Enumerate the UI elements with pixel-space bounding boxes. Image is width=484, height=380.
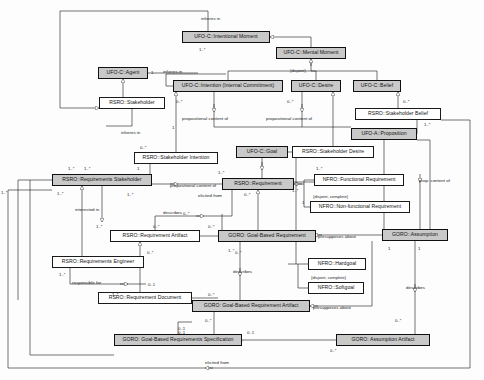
edge-label-prop_content_1: propositional content of <box>182 117 228 122</box>
class-node-label: RSRO::Requirements Stakeholder <box>55 177 149 182</box>
class-node-label: NFRO::Hardgoal <box>311 261 363 266</box>
multiplicity-m37: 0..* <box>330 348 336 353</box>
multiplicity-m26: 1 <box>388 246 390 251</box>
class-node-proposition[interactable]: UFO-A::Proposition <box>351 128 417 140</box>
edge-label-inheres_in_mid: inheres in <box>121 131 140 136</box>
class-node-mental_moment[interactable]: UFO-C::Mental Moment <box>276 47 346 59</box>
multiplicity-m24: 1..* <box>228 248 234 253</box>
multiplicity-m19: 1 <box>302 200 304 205</box>
multiplicity-m29: 1..* <box>59 272 65 277</box>
multiplicity-m22: 0..* <box>208 224 214 229</box>
edge-label-describes_3: describes <box>406 286 425 291</box>
class-node-softgoal[interactable]: NFRO::Softgoal <box>308 282 364 294</box>
class-node-label: RSRO::Requirement Artifact <box>113 233 197 238</box>
multiplicity-m13: 1..* <box>218 170 224 175</box>
multiplicity-m16: 1..* <box>127 192 133 197</box>
class-node-label: UFO-C::Mental Moment <box>279 50 343 55</box>
edge-label-presupposes_1: presupposes about <box>318 235 356 240</box>
edge-label-describes_1: describes <box>163 211 182 216</box>
multiplicity-m5: 0..* <box>403 99 409 104</box>
class-node-label: RSRO::Stakeholder Desire <box>295 149 371 154</box>
multiplicity-m7: 1 <box>172 125 174 130</box>
constraint-disjoint_mental: {disjoint} <box>290 68 306 73</box>
class-node-label: UFO-A::Proposition <box>354 131 414 136</box>
class-node-req_artifact[interactable]: RSRO::Requirement Artifact <box>110 230 200 242</box>
constraint-disjoint_complete_req: {disjoint, complete} <box>313 194 348 199</box>
class-node-intentional_moment[interactable]: UFO-C::Intentional Moment <box>182 31 270 43</box>
class-node-stakeholder[interactable]: RSRO::Stakeholder <box>99 97 165 109</box>
relationship-edges <box>0 0 484 380</box>
class-node-label: RSRO::Requirement <box>225 181 291 186</box>
multiplicity-m17: 0..* <box>244 192 250 197</box>
multiplicity-m38: 0..* <box>395 318 401 323</box>
multiplicity-m14: 1..* <box>316 166 322 171</box>
class-node-label: NFRO::Softgoal <box>311 285 361 290</box>
multiplicity-m35: 0..1 <box>178 330 185 335</box>
edge-label-elicited_from_1: elicited from <box>198 194 222 199</box>
edge-label-inheres_in_top: inheres in <box>201 17 220 22</box>
class-node-label: GORO: Goal-Based Requirement Artifact <box>195 303 307 308</box>
multiplicity-m21: 0..* <box>153 224 159 229</box>
class-node-requirement[interactable]: RSRO::Requirement <box>222 178 294 190</box>
edge-label-prop_content_2: propositional content of <box>266 117 312 122</box>
class-node-goal[interactable]: UFO-C::Goal <box>236 146 288 158</box>
class-node-label: RSRO::Stakeholder <box>102 100 162 105</box>
class-node-label: NFRO::Non-functional Requirement <box>313 204 407 209</box>
multiplicity-m33: 0..* <box>205 318 211 323</box>
class-node-label: UFO-C::Desire <box>294 83 338 88</box>
class-node-goal_based_req[interactable]: GORO: Goal-Based Requirement <box>218 230 316 242</box>
class-node-label: UFO-C::Intention (Internal Commitment) <box>176 83 280 88</box>
class-node-label: GORO: Assumption Artifact <box>339 337 427 342</box>
multiplicity-m12: 1..* <box>1 190 7 195</box>
class-node-assumption_artifact[interactable]: GORO: Assumption Artifact <box>336 334 430 346</box>
class-node-label: UFO-C::Goal <box>239 149 285 154</box>
class-node-req_stakeholder[interactable]: RSRO::Requirements Stakeholder <box>52 174 152 186</box>
edge-label-presupposes_2: presupposes about <box>313 306 351 311</box>
multiplicity-m32: 1..* <box>112 292 118 297</box>
class-node-label: NFRO::Functional Requirement <box>317 177 401 182</box>
class-node-label: UFO-C::Intentional Moment <box>185 34 267 39</box>
class-node-req_engineer[interactable]: RSRO::Requirements Engineer <box>52 256 144 268</box>
multiplicity-m2: 1 <box>151 70 153 75</box>
multiplicity-m10: 1..* <box>84 166 90 171</box>
multiplicity-m4: 0..* <box>287 99 293 104</box>
class-node-functional_req[interactable]: NFRO::Functional Requirement <box>314 174 404 186</box>
class-node-label: GORO::Assumption <box>385 232 445 237</box>
class-node-gb_req_spec[interactable]: GORO: Goal-Based Requirements Specificat… <box>114 334 242 346</box>
class-node-nonfunctional_req[interactable]: NFRO::Non-functional Requirement <box>310 201 410 213</box>
edge-label-inheres_in_agent: inheres in <box>163 70 182 75</box>
multiplicity-m20: 0..* <box>183 211 189 216</box>
multiplicity-m30: 0..1 <box>148 282 155 287</box>
class-node-label: UFO-C::Agent <box>101 70 145 75</box>
multiplicity-m11: 1 <box>137 166 139 171</box>
class-node-label: GORO: Goal-Based Requirements Specificat… <box>117 337 239 342</box>
multiplicity-m9: 1..* <box>68 166 74 171</box>
multiplicity-m23: 1..* <box>96 224 102 229</box>
multiplicity-m28: 0..* <box>147 250 153 255</box>
constraint-disjoint_complete_goal: {disjoint, complete} <box>311 275 346 280</box>
class-node-stakeholder_intention[interactable]: RSRO::Stakeholder Intention <box>134 152 218 164</box>
class-node-label: RSRO::Stakeholder Intention <box>137 155 215 160</box>
edge-label-describes_2: describes <box>233 270 252 275</box>
uml-diagram-canvas: UFO-C::Intentional MomentUFO-C::Mental M… <box>0 0 484 380</box>
class-node-stakeholder_belief[interactable]: RSRO::Stakeholder Belief <box>355 108 441 120</box>
class-node-intention[interactable]: UFO-C::Intention (Internal Commitment) <box>173 80 283 92</box>
edge-label-prop_content_right: prop: content of <box>419 179 450 184</box>
class-node-label: GORO: Goal-Based Requirement <box>221 233 313 238</box>
class-node-agent[interactable]: UFO-C::Agent <box>98 67 148 79</box>
class-node-assumption[interactable]: GORO::Assumption <box>382 229 448 241</box>
multiplicity-m3: 0..* <box>176 99 182 104</box>
edge-label-prop_content_3: propositional content of <box>170 184 216 189</box>
multiplicity-m25: 0..* <box>235 250 241 255</box>
class-node-label: RSRO::Requirements Engineer <box>55 259 141 264</box>
edge-label-elicited_from_2: elicited from <box>205 361 229 366</box>
class-node-hardgoal[interactable]: NFRO::Hardgoal <box>308 258 366 270</box>
class-node-label: RSRO::Stakeholder Belief <box>358 111 438 116</box>
class-node-belief[interactable]: UFO-C::Belief <box>353 80 401 92</box>
multiplicity-m36: 0..1 <box>247 330 254 335</box>
class-node-gb_req_artifact[interactable]: GORO: Goal-Based Requirement Artifact <box>192 300 310 312</box>
multiplicity-m1: 1..* <box>199 47 205 52</box>
class-node-label: UFO-C::Belief <box>356 83 398 88</box>
class-node-stakeholder_desire[interactable]: RSRO::Stakeholder Desire <box>292 146 374 158</box>
class-node-desire[interactable]: UFO-C::Desire <box>291 80 341 92</box>
